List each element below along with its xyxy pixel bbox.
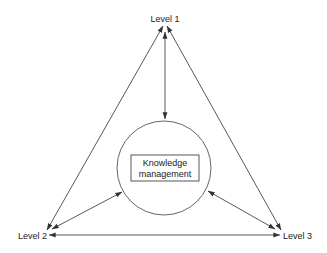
knowledge-management-diagram: Knowledge management Level 1 Level 2 Lev… <box>0 0 327 253</box>
level3-label: Level 3 <box>283 231 312 241</box>
edge-level3-center <box>208 191 275 229</box>
level2-label: Level 2 <box>18 231 47 241</box>
level1-label: Level 1 <box>150 14 179 24</box>
center-label-line2: management <box>139 169 192 179</box>
edge-level2-center <box>52 192 122 229</box>
center-label-line1: Knowledge <box>143 158 188 168</box>
